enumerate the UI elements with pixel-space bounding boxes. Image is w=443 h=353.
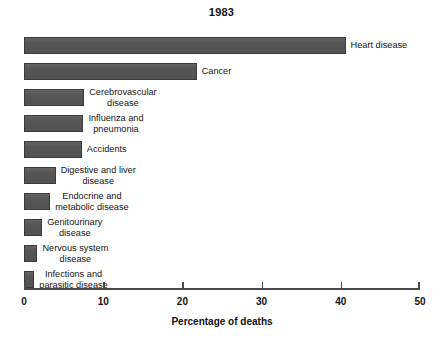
bar-label-line: Genitourinary	[47, 217, 102, 228]
bar-label: Endocrine andmetabolic disease	[55, 191, 129, 212]
x-axis-tick-label: 30	[256, 296, 267, 307]
bar-label-line: Cancer	[202, 66, 232, 77]
x-axis-tick	[341, 282, 343, 288]
bar-label-line: Cerebrovascular	[89, 87, 156, 98]
bar-label-line: Infections and	[39, 269, 107, 280]
bar-label-line: disease	[47, 228, 102, 239]
bar-label-line: disease	[89, 98, 156, 109]
bar-label-line: Heart disease	[351, 40, 408, 51]
bar-label: Heart disease	[351, 40, 408, 51]
bar	[24, 193, 50, 210]
bar-label-line: Accidents	[87, 144, 127, 155]
x-axis-line	[24, 288, 420, 290]
bar-label-line: Influenza and	[88, 113, 143, 124]
bar	[24, 245, 37, 262]
bar	[24, 63, 197, 80]
bar	[24, 167, 56, 184]
x-axis-title: Percentage of deaths	[24, 316, 420, 327]
x-axis-tick	[262, 282, 264, 288]
bar-label-line: Nervous system	[42, 243, 108, 254]
bar	[24, 89, 84, 106]
bar-label: Nervous systemdisease	[42, 243, 108, 264]
bar-label: Cerebrovasculardisease	[89, 87, 156, 108]
x-axis-tick-label: 40	[335, 296, 346, 307]
bar-label-line: disease	[42, 254, 108, 265]
bar-label: Influenza andpneumonia	[88, 113, 143, 134]
plot-area: Heart diseaseCancerCerebrovasculardiseas…	[0, 30, 443, 292]
x-axis-tick-label: 0	[21, 296, 27, 307]
x-axis-tick	[182, 282, 184, 288]
bar-label: Digestive and liverdisease	[61, 165, 136, 186]
bar	[24, 219, 42, 236]
bar-label: Genitourinarydisease	[47, 217, 102, 238]
x-axis: Percentage of deaths 01020304050	[0, 288, 443, 353]
bar-label: Cancer	[202, 66, 232, 77]
axis-end-cap	[24, 282, 26, 289]
bar	[24, 115, 83, 132]
x-axis-tick	[103, 282, 105, 288]
chart-title: 1983	[0, 6, 443, 18]
bar	[24, 141, 82, 158]
x-axis-tick-label: 50	[414, 296, 425, 307]
axis-end-cap	[418, 282, 420, 289]
bar-label: Infections andparasitic disease	[39, 269, 107, 290]
bar-label-line: pneumonia	[88, 124, 143, 135]
bar	[24, 37, 346, 54]
x-axis-tick-label: 20	[177, 296, 188, 307]
bar-label-line: metabolic disease	[55, 202, 129, 213]
bar-label-line: Digestive and liver	[61, 165, 136, 176]
bar-label-line: disease	[61, 176, 136, 187]
bar-chart: 1983 Heart diseaseCancerCerebrovasculard…	[0, 0, 443, 353]
bar-label: Accidents	[87, 144, 127, 155]
bar-label-line: Endocrine and	[55, 191, 129, 202]
x-axis-tick-label: 10	[98, 296, 109, 307]
